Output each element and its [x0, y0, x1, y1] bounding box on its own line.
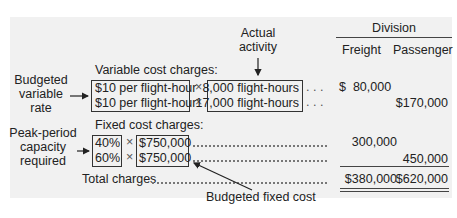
annotation-arrows — [0, 0, 457, 218]
arrow-diagonal-icon — [194, 163, 252, 190]
